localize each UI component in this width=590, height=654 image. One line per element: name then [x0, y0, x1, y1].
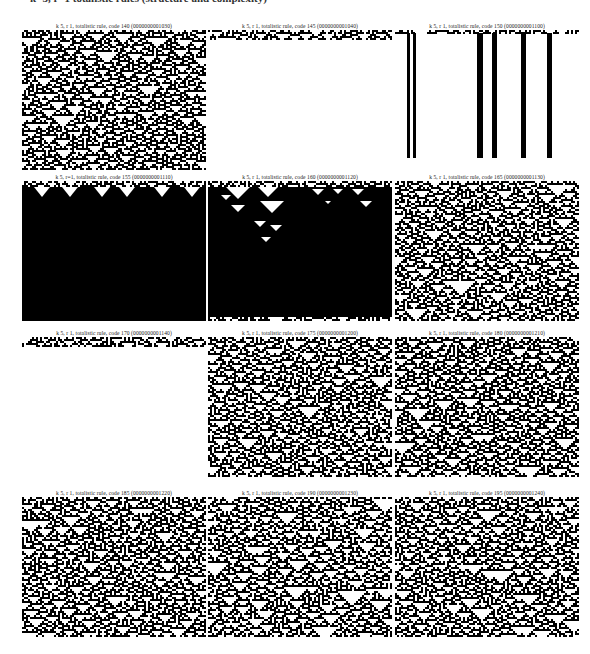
ca-plot	[208, 30, 392, 170]
panel-title: k 5, r 1, totalistic rule, code 180 (000…	[395, 329, 579, 337]
ca-panel-190: k 5, r 1, totalistic rule, code 190 (000…	[208, 489, 392, 637]
page-header: k=5, r=1 totalistic rules (structure and…	[30, 0, 267, 4]
panel-title: k 5, r 1, totalistic rule, code 190 (000…	[208, 489, 392, 497]
panel-title: k 5, r 1, totalistic rule, code 150 (000…	[395, 22, 579, 30]
ca-panel-155: k 5, r=1, totalistic rule, code 155 (000…	[22, 173, 206, 321]
ca-panel-165: k 5, r 1, totalistic rule, code 165 (000…	[395, 173, 579, 321]
ca-panel-175: k 5, r 1, totalistic rule, code 175 (000…	[208, 329, 392, 477]
ca-plot	[208, 337, 392, 477]
panel-title: k 5, r 1, totalistic rule, code 145 (000…	[208, 22, 392, 30]
panel-title: k 5, r 1, totalistic rule, code 160 (000…	[208, 173, 392, 181]
panel-title: k 5, r 1, totalistic rule, code 195 (000…	[395, 489, 579, 497]
ca-panel-180: k 5, r 1, totalistic rule, code 180 (000…	[395, 329, 579, 477]
panel-title: k 5, r 1, totalistic rule, code 165 (000…	[395, 173, 579, 181]
ca-plot	[395, 497, 579, 637]
ca-panel-170: k 5, r 1, totalistic rule, code 170 (000…	[22, 329, 206, 477]
ca-panel-185: k 5, r 1, totalistic rule, code 185 (000…	[22, 489, 206, 637]
ca-panel-160: k 5, r 1, totalistic rule, code 160 (000…	[208, 173, 392, 321]
ca-plot	[395, 30, 579, 170]
panel-title: k 5, r=1, totalistic rule, code 155 (000…	[22, 173, 206, 181]
panel-title: k 5, r 1, totalistic rule, code 170 (000…	[22, 329, 206, 337]
panel-title: k 5, r 1, totalistic rule, code 185 (000…	[22, 489, 206, 497]
ca-plot	[395, 337, 579, 477]
ca-plot	[22, 337, 206, 477]
panel-title: k 5, r 1, totalistic rule, code 175 (000…	[208, 329, 392, 337]
ca-panel-140: k 5, r 1, totalistic rule, code 140 (000…	[22, 22, 206, 170]
ca-panel-195: k 5, r 1, totalistic rule, code 195 (000…	[395, 489, 579, 637]
ca-plot	[22, 181, 206, 321]
ca-plot	[22, 497, 206, 637]
ca-plot	[208, 181, 392, 321]
ca-panel-145: k 5, r 1, totalistic rule, code 145 (000…	[208, 22, 392, 170]
ca-panel-150: k 5, r 1, totalistic rule, code 150 (000…	[395, 22, 579, 170]
ca-plot	[395, 181, 579, 321]
ca-plot	[208, 497, 392, 637]
ca-plot	[22, 30, 206, 170]
panel-title: k 5, r 1, totalistic rule, code 140 (000…	[22, 22, 206, 30]
